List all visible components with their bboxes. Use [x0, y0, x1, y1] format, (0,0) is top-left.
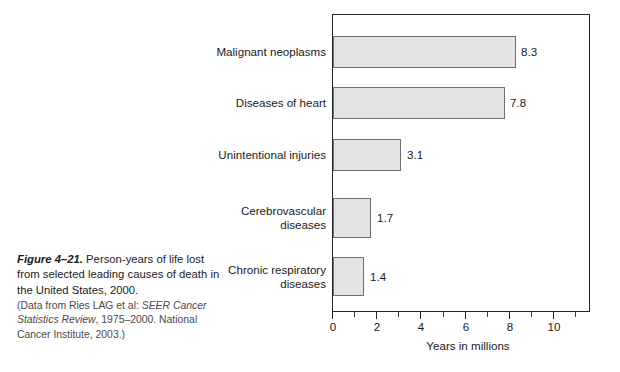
x-tick-6 — [465, 312, 466, 319]
x-tick-label-10: 10 — [539, 320, 569, 333]
caption-main-text: Figure 4–21. Person-years of life lost f… — [17, 252, 227, 298]
category-label-malignant-neoplasms: Malignant neoplasms — [176, 45, 326, 59]
x-tick-4 — [420, 312, 421, 319]
x-tick-label-2: 2 — [362, 320, 392, 333]
x-tick-label-8: 8 — [495, 320, 525, 333]
bar-value-label: 3.1 — [407, 148, 423, 161]
x-tick-9 — [531, 312, 532, 317]
x-tick-0 — [332, 312, 333, 319]
bar-malignant-neoplasms — [333, 36, 516, 68]
figure-number: Figure 4–21. — [17, 253, 83, 265]
bar-value-label: 1.7 — [377, 211, 393, 224]
x-tick-3 — [398, 312, 399, 317]
category-label-unintentional-injuries: Unintentional injuries — [176, 148, 326, 162]
x-axis-title: Years in millions — [398, 339, 538, 352]
bar-diseases-of-heart — [333, 87, 505, 119]
bar-unintentional-injuries — [333, 139, 401, 171]
bar-value-label: 7.8 — [510, 96, 526, 109]
category-label-diseases-of-heart: Diseases of heart — [176, 96, 326, 110]
x-tick-5 — [443, 312, 444, 317]
figure-caption: Figure 4–21. Person-years of life lost f… — [17, 252, 227, 343]
bar-value-label: 8.3 — [521, 45, 537, 58]
caption-source-text: (Data from Ries LAG et al: SEER Cancer S… — [17, 299, 227, 343]
x-tick-10 — [553, 312, 554, 319]
x-tick-label-0: 0 — [318, 320, 348, 333]
bar-chronic-respiratory-diseases — [333, 257, 364, 296]
x-tick-8 — [509, 312, 510, 319]
bar-cerebrovascular-diseases — [333, 198, 371, 238]
x-tick-1 — [354, 312, 355, 317]
x-tick-11 — [575, 312, 576, 317]
category-label-cerebrovascular-diseases: Cerebrovascular diseases — [176, 204, 326, 232]
x-tick-label-6: 6 — [451, 320, 481, 333]
x-tick-label-4: 4 — [406, 320, 436, 333]
x-tick-7 — [487, 312, 488, 317]
x-tick-2 — [376, 312, 377, 319]
bar-value-label: 1.4 — [370, 270, 386, 283]
source-prefix: (Data from Ries LAG et al: — [17, 300, 142, 311]
